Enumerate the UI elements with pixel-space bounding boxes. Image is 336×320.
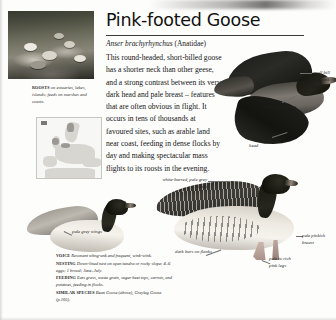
scan-smudge-artifact <box>150 0 336 9</box>
map-key-swatch <box>41 121 47 125</box>
europe-distribution-map <box>36 117 102 179</box>
family-name: (Anatidae) <box>174 39 206 48</box>
leader-line-small-bill <box>300 73 312 74</box>
photo-goose <box>64 41 75 48</box>
fact-similar-species: SIMILAR SPECIES Bean Goose (above), Grey… <box>56 290 174 304</box>
fact-feeding-keyword: FEEDING <box>56 275 76 280</box>
fact-feeding: FEEDING Eats grass, waste grain, sugar b… <box>56 275 174 289</box>
fact-nesting-keyword: NESTING <box>56 261 76 266</box>
annotation-round-head: dark, round head <box>249 136 274 150</box>
field-guide-page: ROOSTS on estuaries, lakes, islands; fee… <box>0 0 336 320</box>
fact-file: VOICE Resonant whng-unk and frequent, wi… <box>56 253 174 304</box>
photo-goose <box>24 43 37 51</box>
annotation-underwings: dark underwings <box>264 104 298 111</box>
map-land-anatolia <box>83 158 101 167</box>
flying-goose-illustration <box>212 47 336 155</box>
map-range-passage <box>61 143 70 148</box>
fact-voice-keyword: VOICE <box>56 253 70 258</box>
fact-voice: VOICE Resonant whng-unk and frequent, wi… <box>56 253 174 260</box>
fact-voice-text: Resonant whng-unk and frequent, wink-win… <box>70 253 152 258</box>
photo-goose <box>54 33 64 39</box>
map-range-breeding <box>67 123 74 132</box>
latin-binomial: Anser brachyrhynchus <box>106 39 173 48</box>
map-range-wintering <box>52 138 59 145</box>
fact-nesting: NESTING Down-lined nest on open tundra o… <box>56 261 174 275</box>
annotation-small-bill: small bill with pink band <box>312 70 336 91</box>
page-title: Pink-footed Goose <box>106 12 260 30</box>
habitat-photo <box>8 11 94 79</box>
fact-similar-keyword: SIMILAR SPECIES <box>56 290 95 295</box>
annotation-pink-breast: pale pinkish breast <box>302 233 332 247</box>
annotation-dark-bars: dark bars on flanks <box>175 249 213 256</box>
habitat-caption: ROOSTS on estuaries, lakes, islands; fee… <box>32 85 94 106</box>
map-land-africa <box>45 168 95 179</box>
scan-edge-left <box>0 0 3 320</box>
photo-goose <box>42 51 57 60</box>
goose-tail <box>213 76 254 99</box>
map-land-iberia <box>43 156 57 167</box>
species-description: This round-headed, short-billed goose ha… <box>106 52 222 175</box>
leader-line-grey-back <box>208 181 230 182</box>
photo-goose <box>74 55 86 62</box>
photo-goose <box>30 61 46 69</box>
annotation-grey-back: white-barred, pale grey back <box>159 177 207 191</box>
annotation-pink-legs: pale to rich pink legs <box>269 256 297 270</box>
goose-flank-bars <box>180 216 260 242</box>
habitat-caption-keyword: ROOSTS <box>32 85 50 90</box>
scientific-name: Anser brachyrhynchus (Anatidae) <box>106 39 206 48</box>
annotation-pale-wings: pale grey wings <box>72 229 108 236</box>
goose-bill <box>124 203 136 208</box>
title-divider <box>106 35 304 36</box>
